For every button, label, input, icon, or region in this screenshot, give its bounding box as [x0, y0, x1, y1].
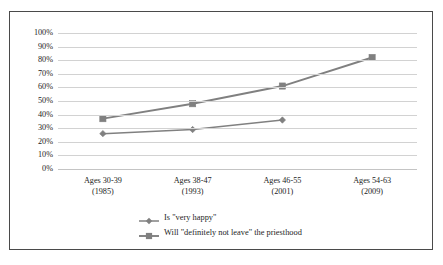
- series-1: [100, 117, 286, 137]
- legend-item[interactable]: Is "very happy": [10, 211, 432, 226]
- y-axis-tick-label: 70%: [38, 70, 53, 78]
- gridline: 90%: [58, 47, 417, 48]
- data-point-diamond: [100, 130, 106, 136]
- plot-area: 100%90%80%70%60%50%40%30%20%10%0%: [58, 33, 417, 169]
- legend-diamond-marker-icon: [138, 213, 160, 225]
- legend-label: Will "definitely not leave" the priestho…: [164, 229, 302, 237]
- line-chart: 100%90%80%70%60%50%40%30%20%10%0% Ages 3…: [10, 12, 432, 249]
- y-axis-tick-label: 100%: [34, 29, 53, 37]
- y-axis-tick-label: 0%: [42, 165, 53, 173]
- x-axis-year: (2009): [353, 186, 391, 197]
- chart-figure: 100%90%80%70%60%50%40%30%20%10%0% Ages 3…: [0, 0, 443, 265]
- gridline: 40%: [58, 115, 417, 116]
- gridline: 100%: [58, 33, 417, 34]
- x-axis-age-range: Ages 30-39: [84, 175, 122, 186]
- y-axis-tick-label: 60%: [38, 83, 53, 91]
- gridline: 70%: [58, 74, 417, 75]
- x-axis-age-range: Ages 38-47: [174, 175, 212, 186]
- y-axis-tick-label: 50%: [38, 97, 53, 105]
- chart-legend: Is "very happy"Will "definitely not leav…: [10, 211, 432, 241]
- x-axis-category-label: Ages 54-63(2009): [353, 175, 391, 197]
- x-axis-year: (2001): [263, 186, 301, 197]
- chart-frame-border: 100%90%80%70%60%50%40%30%20%10%0% Ages 3…: [9, 11, 433, 250]
- y-axis-tick-label: 20%: [38, 138, 53, 146]
- x-axis-age-range: Ages 54-63: [353, 175, 391, 186]
- y-axis-tick-label: 80%: [38, 56, 53, 64]
- legend-label: Is "very happy": [164, 214, 216, 222]
- gridline: 50%: [58, 101, 417, 102]
- y-axis-tick-label: 90%: [38, 42, 53, 50]
- gridline: 80%: [58, 60, 417, 61]
- x-axis-category-label: Ages 30-39(1985): [84, 175, 122, 197]
- x-axis-year: (1993): [174, 186, 212, 197]
- y-axis-tick-label: 40%: [38, 110, 53, 118]
- gridline: 60%: [58, 87, 417, 88]
- gridline: 30%: [58, 128, 417, 129]
- gridline: 20%: [58, 142, 417, 143]
- y-axis-tick-label: 10%: [38, 151, 53, 159]
- data-point-diamond: [279, 117, 285, 123]
- x-axis-age-range: Ages 46-55: [263, 175, 301, 186]
- gridline: 0%: [58, 169, 417, 170]
- legend-square-marker-icon: [138, 228, 160, 240]
- legend-item[interactable]: Will "definitely not leave" the priestho…: [10, 226, 432, 241]
- x-axis-category-label: Ages 38-47(1993): [174, 175, 212, 197]
- x-axis-year: (1985): [84, 186, 122, 197]
- x-axis-labels: Ages 30-39(1985)Ages 38-47(1993)Ages 46-…: [58, 175, 417, 205]
- x-axis-category-label: Ages 46-55(2001): [263, 175, 301, 197]
- y-axis-tick-label: 30%: [38, 124, 53, 132]
- data-point-square: [100, 116, 106, 122]
- gridline: 10%: [58, 155, 417, 156]
